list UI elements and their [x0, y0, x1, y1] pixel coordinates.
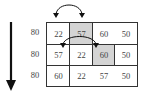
grid-cell: 60 [47, 66, 70, 86]
row-label: 80 [27, 49, 43, 59]
column-divider [92, 44, 93, 65]
grid-cell: 50 [115, 66, 137, 86]
grid-cell: 50 [115, 44, 137, 66]
grid-cell: 60 [93, 23, 115, 44]
grid-cell-highlighted: 57 [70, 23, 93, 44]
grid-cell: 22 [70, 66, 93, 86]
column-divider [69, 44, 70, 65]
column-divider [69, 65, 70, 86]
grid-cell: 57 [93, 66, 115, 86]
row-label: 80 [27, 70, 43, 80]
grid-cell: 50 [115, 23, 137, 44]
grid-cell: 22 [47, 23, 70, 44]
value-grid: 22 57 60 50 57 22 60 50 60 22 57 50 [46, 22, 138, 87]
swap-diagram: 80 80 80 22 57 60 50 57 22 60 50 60 22 5… [0, 0, 146, 97]
grid-cell: 22 [70, 44, 93, 66]
column-divider [92, 23, 93, 44]
grid-cell-highlighted: 60 [93, 44, 115, 66]
row-divider [47, 65, 137, 66]
column-divider [69, 23, 70, 44]
row-label: 80 [27, 27, 43, 37]
column-divider [114, 44, 115, 65]
swap-arrow-icon [53, 5, 85, 18]
grid-cell: 57 [47, 44, 70, 66]
